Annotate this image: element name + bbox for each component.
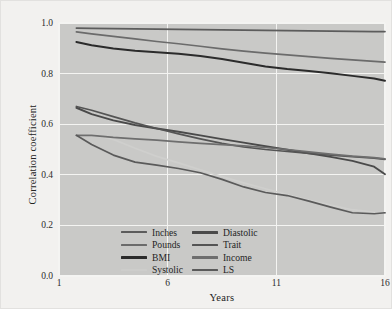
legend-swatch-icon <box>192 244 218 246</box>
legend-label: Diastolic <box>223 228 258 238</box>
y-tick-label: 1.0 <box>41 18 53 28</box>
legend-item[interactable]: Trait <box>192 239 258 252</box>
legend-label: Income <box>223 253 252 263</box>
x-axis-label: Years <box>59 292 385 303</box>
legend-swatch-icon <box>192 231 218 234</box>
legend-label: Pounds <box>152 240 180 250</box>
y-tick-label: 0.2 <box>41 220 53 230</box>
legend-item[interactable]: Diastolic <box>192 226 258 239</box>
legend-label: LS <box>223 265 234 275</box>
series-line-pounds <box>76 32 385 62</box>
x-tick-label: 1 <box>57 278 62 288</box>
legend-swatch-icon <box>121 256 147 259</box>
legend-item[interactable]: Systolic <box>121 264 183 277</box>
series-line-trait <box>76 106 385 159</box>
x-tick-label: 6 <box>165 278 170 288</box>
figure-page: Correlation coefficient 0.00.20.40.60.81… <box>0 0 392 309</box>
legend-swatch-icon <box>121 244 147 246</box>
legend-item[interactable]: LS <box>192 264 258 277</box>
legend-label: Inches <box>152 228 177 238</box>
y-tick-label: 0.0 <box>41 271 53 281</box>
legend-label: Systolic <box>152 265 183 275</box>
series-line-ls <box>76 135 385 213</box>
plot-area: InchesDiastolicPoundsTraitBMIIncomeSysto… <box>59 23 385 276</box>
legend-label: Trait <box>223 240 241 250</box>
legend-item[interactable]: BMI <box>121 251 183 264</box>
x-tick-label: 16 <box>380 278 390 288</box>
y-tick-label: 0.4 <box>41 170 53 180</box>
y-tick-label: 0.8 <box>41 69 53 79</box>
chart-figure: Correlation coefficient 0.00.20.40.60.81… <box>1 1 392 309</box>
legend-swatch-icon <box>192 256 218 258</box>
legend: InchesDiastolicPoundsTraitBMIIncomeSysto… <box>121 226 258 276</box>
y-tick-label: 0.6 <box>41 119 53 129</box>
y-axis-ticks: 0.00.20.40.60.81.0 <box>1 23 59 276</box>
x-tick-label: 11 <box>272 278 281 288</box>
series-line-income <box>76 135 385 159</box>
series-line-systolic <box>76 134 385 212</box>
legend-item[interactable]: Pounds <box>121 239 183 252</box>
legend-swatch-icon <box>121 231 147 233</box>
legend-label: BMI <box>152 253 170 263</box>
legend-item[interactable]: Inches <box>121 226 183 239</box>
series-line-bmi <box>76 42 385 81</box>
series-line-inches <box>76 28 385 32</box>
series-line-diastolic <box>76 108 385 175</box>
legend-item[interactable]: Income <box>192 251 258 264</box>
legend-swatch-icon <box>192 269 218 271</box>
legend-swatch-icon <box>121 269 147 271</box>
